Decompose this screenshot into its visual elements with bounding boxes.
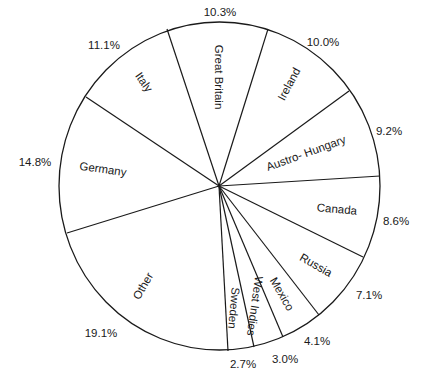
percentage-label: 4.1% xyxy=(304,335,330,347)
percentage-label: 11.1% xyxy=(88,39,120,51)
percentage-label: 10.0% xyxy=(307,36,340,48)
percentage-label: 19.1% xyxy=(85,327,118,339)
percentage-label: 8.6% xyxy=(383,215,409,227)
percentage-label: 9.2% xyxy=(376,125,402,137)
percentage-label: 2.7% xyxy=(230,358,256,370)
percentage-label: 3.0% xyxy=(272,353,298,365)
slice-label: Great Britain xyxy=(213,45,225,110)
percentage-label: 7.1% xyxy=(356,289,382,301)
percentage-label: 14.8% xyxy=(19,156,52,168)
pie-chart: Great BritainIrelandAustro- HungaryCanad… xyxy=(0,0,432,384)
percentage-label: 10.3% xyxy=(204,6,237,18)
